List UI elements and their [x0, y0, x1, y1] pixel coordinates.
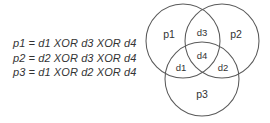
venn-region-label-d4: d4: [197, 50, 208, 61]
equation-line-p3: p3 = d1 XOR d2 XOR d4: [13, 65, 133, 80]
venn-label-p3: p3: [196, 88, 208, 100]
venn-label-p2: p2: [230, 28, 242, 40]
equation-line-p2: p2 = d2 XOR d3 XOR d4: [13, 51, 133, 66]
venn-label-p1: p1: [163, 28, 175, 40]
venn-region-label-d3: d3: [197, 27, 208, 38]
venn-region-label-d2: d2: [218, 62, 229, 73]
equation-line-p1: p1 = d1 XOR d3 XOR d4: [13, 36, 133, 51]
venn-diagram: p1 p2 p3 d3 d1 d2 d4: [135, 0, 270, 123]
equation-block: p1 = d1 XOR d3 XOR d4 p2 = d2 XOR d3 XOR…: [13, 36, 133, 80]
venn-region-label-d1: d1: [176, 62, 187, 73]
